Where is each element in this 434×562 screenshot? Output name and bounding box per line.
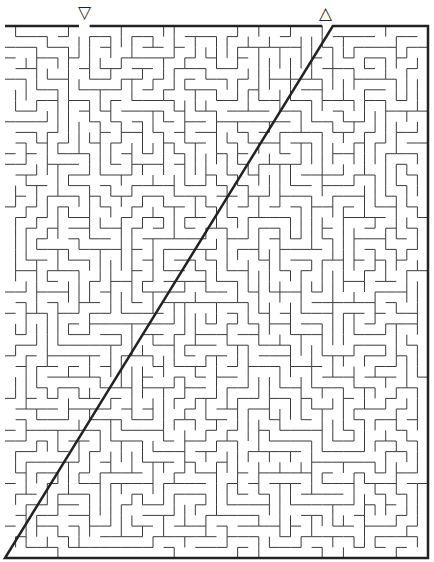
maze-grid[interactable]	[0, 0, 434, 562]
maze-walls	[5, 26, 428, 558]
